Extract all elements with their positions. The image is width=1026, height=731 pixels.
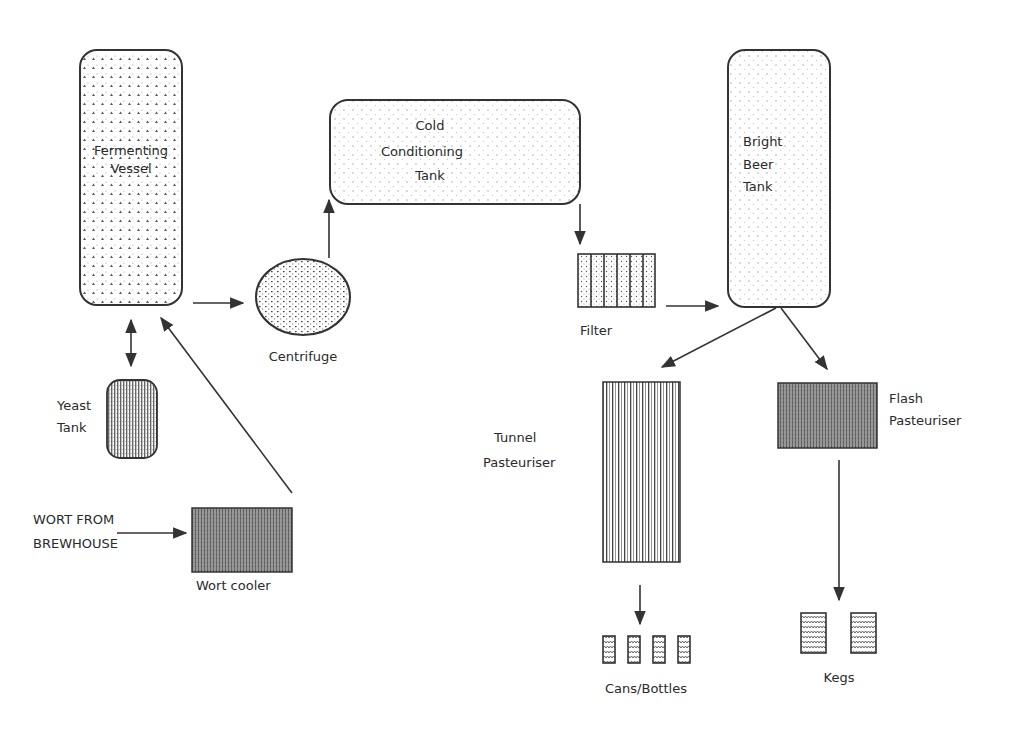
filter: Filter — [578, 254, 655, 338]
kegs: Kegs — [801, 613, 876, 685]
cold-conditioning-label-3: Tank — [414, 168, 445, 183]
wort-source-label-2: BREWHOUSE — [33, 536, 118, 551]
tunnel-pasteuriser: Tunnel Pasteuriser — [483, 382, 680, 562]
yeast-tank-label-2: Tank — [56, 420, 87, 435]
bright-beer-label-3: Tank — [742, 179, 773, 194]
arrow-wort-cooler-to-fermenter — [161, 318, 292, 493]
cans-bottles-label: Cans/Bottles — [605, 681, 687, 696]
fermenting-vessel-label-2: Vessel — [110, 161, 151, 176]
fermenting-vessel: Fermenting Vessel — [80, 50, 182, 305]
cold-conditioning-label-1: Cold — [416, 118, 445, 133]
cold-conditioning-tank: Cold Conditioning Tank — [330, 100, 580, 204]
flash-pasteuriser-label-2: Pasteuriser — [889, 413, 962, 428]
process-flow-diagram: Fermenting Vessel Cold Conditioning Tank… — [0, 0, 1026, 731]
wort-cooler: Wort cooler — [192, 508, 292, 593]
fermenting-vessel-label-1: Fermenting — [94, 143, 168, 158]
flash-pasteuriser-label-1: Flash — [889, 391, 923, 406]
flash-pasteuriser: Flash Pasteuriser — [778, 383, 962, 448]
yeast-tank-label-1: Yeast — [56, 398, 91, 413]
yeast-tank: Yeast Tank — [56, 380, 157, 458]
wort-source: WORT FROM BREWHOUSE — [33, 512, 118, 551]
arrow-bright-tank-to-tunnel — [662, 308, 776, 367]
cold-conditioning-label-2: Conditioning — [381, 144, 463, 159]
bright-beer-tank: Bright Beer Tank — [728, 50, 830, 307]
arrow-bright-tank-to-flash — [781, 308, 827, 369]
filter-label: Filter — [580, 323, 613, 338]
bright-beer-label-2: Beer — [743, 157, 774, 172]
cans-bottles: Cans/Bottles — [603, 636, 690, 696]
centrifuge-label: Centrifuge — [269, 349, 337, 364]
bright-beer-label-1: Bright — [743, 134, 782, 149]
tunnel-pasteuriser-label-2: Pasteuriser — [483, 455, 556, 470]
wort-source-label-1: WORT FROM — [33, 512, 114, 527]
kegs-label: Kegs — [824, 670, 855, 685]
tunnel-pasteuriser-label-1: Tunnel — [493, 430, 536, 445]
centrifuge: Centrifuge — [256, 259, 350, 364]
wort-cooler-label: Wort cooler — [196, 578, 271, 593]
